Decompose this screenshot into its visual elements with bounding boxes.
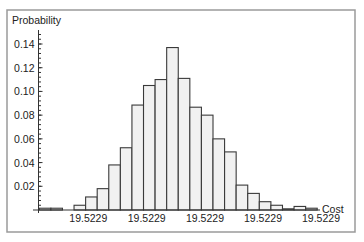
histogram-bar [86, 197, 98, 210]
histogram-bar [236, 185, 248, 210]
x-axis: 19.522919.522919.522919.522919.5229 [33, 210, 340, 224]
histogram-bar [259, 202, 271, 210]
histogram-bar [132, 105, 144, 210]
y-axis-title: Probability [12, 14, 62, 26]
histogram-bar [225, 152, 237, 210]
histogram-bar [155, 80, 167, 210]
y-tick-label: 0.08 [14, 109, 35, 121]
x-tick-label: 19.5229 [186, 212, 224, 224]
histogram-bar [201, 115, 213, 210]
histogram-bar [167, 48, 179, 210]
y-tick-label: 0.06 [14, 133, 35, 145]
y-tick-label: 0.02 [14, 180, 35, 192]
histogram-bar [97, 189, 109, 210]
y-tick-label: 0.14 [14, 38, 35, 50]
histogram-bar [248, 193, 260, 210]
y-axis: 0.020.040.060.080.100.120.14 [14, 30, 42, 213]
x-tick-label: 19.5229 [244, 212, 282, 224]
x-tick-label: 19.5229 [128, 212, 166, 224]
histogram-bar [74, 205, 86, 210]
histogram-bar [109, 165, 121, 210]
histogram-bar [120, 148, 132, 210]
histogram-bar [190, 107, 202, 210]
y-tick-label: 0.04 [14, 157, 35, 169]
histogram-bar [213, 139, 225, 210]
y-tick-label: 0.12 [14, 62, 35, 74]
y-tick-label: 0.10 [14, 85, 35, 97]
histogram-bar [271, 205, 283, 210]
histogram-bars [39, 48, 317, 210]
histogram-bar [144, 86, 156, 211]
histogram-chart: 0.020.040.060.080.100.120.14 19.522919.5… [0, 0, 364, 242]
histogram-bar [178, 78, 190, 210]
histogram-bar [294, 206, 306, 210]
x-tick-label: 19.5229 [69, 212, 107, 224]
x-axis-title: Cost [322, 203, 344, 215]
